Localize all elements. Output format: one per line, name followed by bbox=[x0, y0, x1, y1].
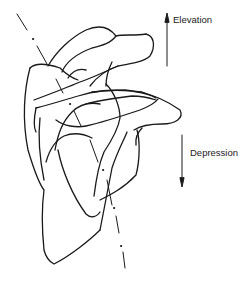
depression-arrow-icon bbox=[180, 135, 184, 187]
scapula-diagram: Elevation Depression bbox=[0, 0, 249, 284]
elevation-arrow-icon bbox=[165, 13, 169, 66]
rotation-axis bbox=[17, 14, 125, 268]
scapula-outline-elevated bbox=[34, 27, 181, 196]
scapula-drawing bbox=[0, 0, 249, 284]
elevation-label: Elevation bbox=[173, 15, 212, 25]
depression-label: Depression bbox=[190, 148, 238, 158]
